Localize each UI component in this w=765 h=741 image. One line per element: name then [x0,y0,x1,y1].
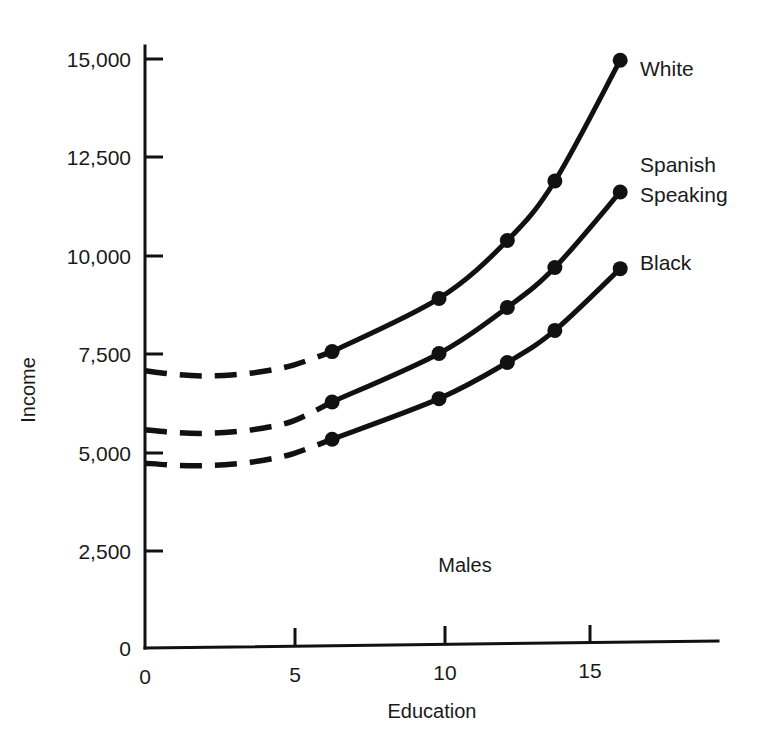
y-tick-label-0: 0 [119,637,131,660]
y-tick-label-15000: 15,000 [67,48,131,71]
data-point-marker [613,261,628,276]
y-tick-label-12500: 12,500 [67,146,131,169]
x-tick-label-5: 5 [289,663,301,686]
x-axis-title: Education [388,700,477,722]
dashed-extrapolation-path [145,352,332,376]
data-point-marker [547,173,562,188]
data-point-marker [500,233,515,248]
x-tick-label-0: 0 [139,665,151,688]
data-point-marker [325,344,340,359]
chart-figure: 15,000 12,500 10,000 7,500 5,000 2,500 0… [0,0,765,741]
x-axis-line [145,641,718,648]
y-tick-label-10000: 10,000 [67,245,131,268]
series-label-black: Black [640,251,692,274]
data-point-marker [547,260,562,275]
x-tick-label-10: 10 [433,661,456,684]
data-point-marker [432,391,447,406]
data-point-marker [432,291,447,306]
males-annotation: Males [438,554,491,576]
data-point-marker [613,53,628,68]
y-tick-label-5000: 5,000 [78,442,131,465]
data-point-marker [432,346,447,361]
series-label-white: White [640,57,694,80]
data-point-marker [325,432,340,447]
dashed-extrapolation-path [145,439,332,465]
y-tick-label-2500: 2,500 [78,540,131,563]
series-spanish-speaking [145,184,628,433]
observed-path [332,269,620,440]
y-axis-title: Income [17,357,39,423]
data-point-marker [325,394,340,409]
dashed-extrapolation-path [145,402,332,433]
series-label-spanish-line2: Speaking [640,183,728,206]
data-point-marker [547,323,562,338]
y-axis-ticks [145,59,163,551]
income-education-line-chart: 15,000 12,500 10,000 7,500 5,000 2,500 0… [0,0,765,741]
series-label-spanish-line1: Spanish [640,153,716,176]
series-layer [145,53,628,466]
x-tick-label-15: 15 [578,659,601,682]
observed-path [332,192,620,402]
y-tick-label-7500: 7,500 [78,343,131,366]
data-point-marker [613,184,628,199]
data-point-marker [500,300,515,315]
data-point-marker [500,355,515,370]
